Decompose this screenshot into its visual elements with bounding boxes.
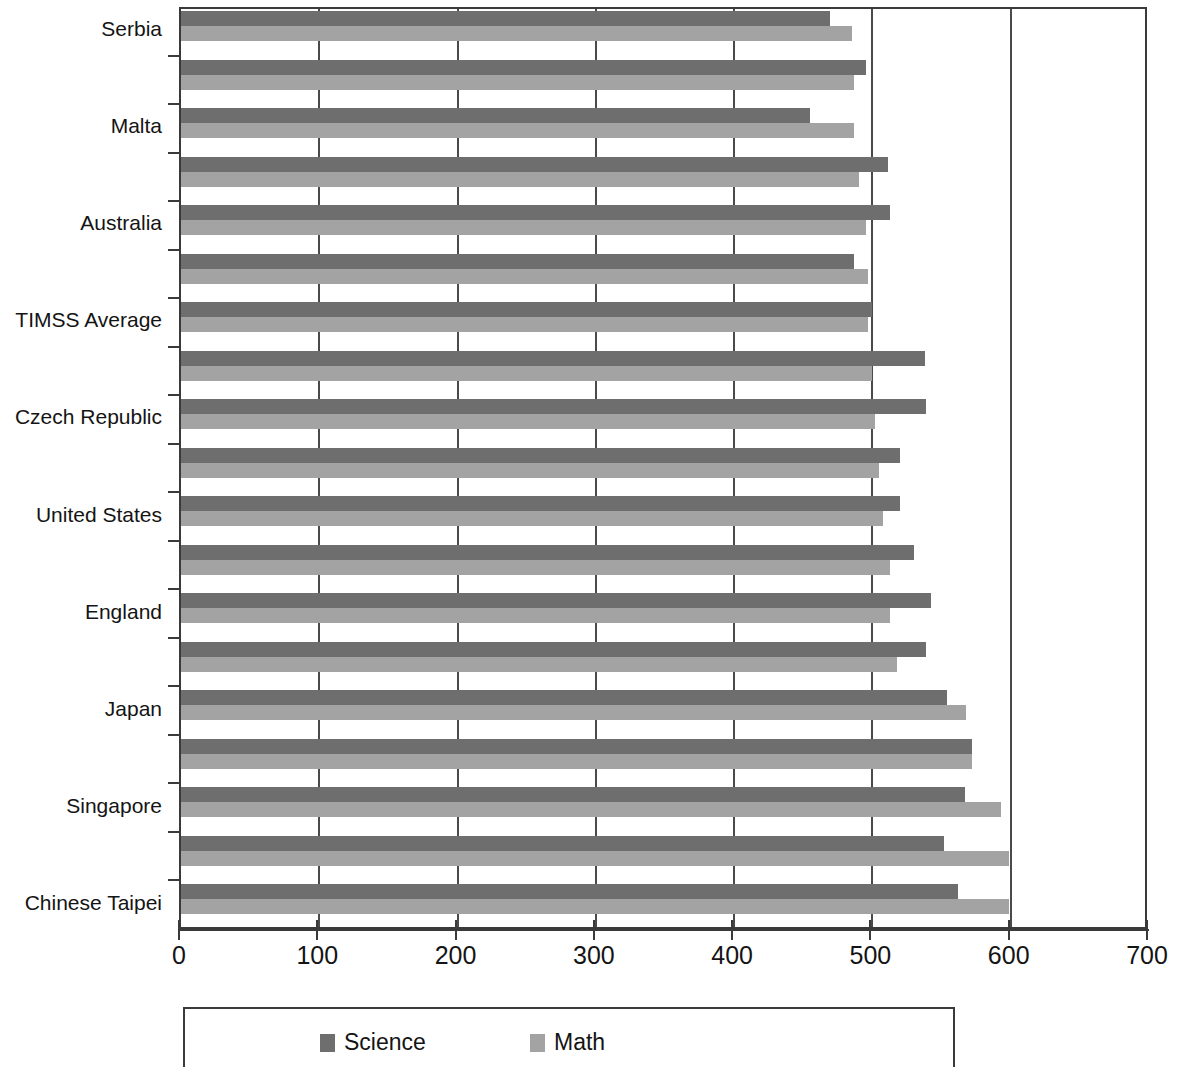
- bar-math: [181, 75, 854, 90]
- plot-area: [179, 7, 1147, 929]
- bar-row: [181, 543, 1145, 592]
- bar-row: [181, 58, 1145, 107]
- x-axis-tick-label-100: 100: [296, 941, 338, 970]
- bar-science: [181, 399, 926, 414]
- x-axis-tick-label-300: 300: [573, 941, 615, 970]
- y-axis-label-australia: Australia: [0, 211, 172, 235]
- y-axis-label-timss-average: TIMSS Average: [0, 308, 172, 332]
- y-axis-label-serbia: Serbia: [0, 17, 172, 41]
- bar-science: [181, 205, 890, 220]
- bar-math: [181, 705, 966, 720]
- y-axis-label-czech-republic: Czech Republic: [0, 405, 172, 429]
- y-axis-tick: [168, 152, 179, 154]
- bar-math: [181, 172, 859, 187]
- y-axis-tick: [168, 637, 179, 639]
- bar-row: [181, 834, 1145, 883]
- bar-science: [181, 642, 926, 657]
- y-axis-tick: [168, 685, 179, 687]
- legend-swatch-math-icon: [530, 1034, 545, 1052]
- bar-math: [181, 366, 872, 381]
- y-axis-tick: [168, 200, 179, 202]
- legend-item-math: Math: [530, 1029, 605, 1056]
- bar-math: [181, 317, 868, 332]
- y-axis-tick: [168, 831, 179, 833]
- x-axis-tick-700: [1146, 920, 1148, 940]
- bar-science: [181, 60, 866, 75]
- bar-row: [181, 882, 1145, 931]
- y-axis-tick: [168, 734, 179, 736]
- bar-science: [181, 593, 931, 608]
- x-axis-tick-label-700: 700: [1126, 941, 1168, 970]
- bar-row: [181, 688, 1145, 737]
- x-axis-line: [179, 929, 1149, 931]
- y-axis-tick: [168, 588, 179, 590]
- bar-science: [181, 496, 900, 511]
- y-axis-tick: [168, 249, 179, 251]
- x-axis-tick-500: [869, 920, 871, 940]
- bar-math: [181, 608, 890, 623]
- y-axis-label-chinese-taipei: Chinese Taipei: [0, 891, 172, 915]
- x-axis-tick-200: [455, 920, 457, 940]
- bar-science: [181, 787, 965, 802]
- x-axis-tick-600: [1008, 920, 1010, 940]
- bar-row: [181, 155, 1145, 204]
- legend-swatch-science-icon: [320, 1034, 335, 1052]
- bar-science: [181, 884, 958, 899]
- bar-science: [181, 545, 914, 560]
- bar-science: [181, 11, 830, 26]
- legend-label-math: Math: [554, 1029, 605, 1056]
- x-axis-tick-300: [593, 920, 595, 940]
- bar-row: [181, 300, 1145, 349]
- bar-science: [181, 690, 947, 705]
- bar-math: [181, 560, 890, 575]
- bar-row: [181, 640, 1145, 689]
- bar-math: [181, 851, 1009, 866]
- y-axis-tick: [168, 782, 179, 784]
- bar-math: [181, 269, 868, 284]
- bar-row: [181, 9, 1145, 58]
- x-axis-tick-label-0: 0: [172, 941, 186, 970]
- y-axis-label-malta: Malta: [0, 114, 172, 138]
- bar-row: [181, 397, 1145, 446]
- bar-math: [181, 899, 1009, 914]
- x-axis-tick-label-200: 200: [435, 941, 477, 970]
- y-axis-tick: [168, 491, 179, 493]
- bar-math: [181, 754, 972, 769]
- x-axis-tick-label-500: 500: [850, 941, 892, 970]
- y-axis-tick: [168, 540, 179, 542]
- bar-math: [181, 463, 879, 478]
- y-axis-tick: [168, 55, 179, 57]
- legend-item-science: Science: [320, 1029, 426, 1056]
- y-axis-tick: [168, 346, 179, 348]
- bar-math: [181, 657, 897, 672]
- bar-science: [181, 302, 872, 317]
- bar-science: [181, 254, 854, 269]
- bar-science: [181, 448, 900, 463]
- x-axis-tick-label-400: 400: [711, 941, 753, 970]
- legend: Science Math: [183, 1007, 955, 1067]
- legend-label-science: Science: [344, 1029, 426, 1056]
- bar-row: [181, 591, 1145, 640]
- bar-science: [181, 739, 972, 754]
- bar-row: [181, 349, 1145, 398]
- x-axis-tick-label-600: 600: [988, 941, 1030, 970]
- bar-science: [181, 351, 925, 366]
- y-axis-tick: [168, 297, 179, 299]
- x-axis-tick-0: [178, 920, 180, 940]
- bar-science: [181, 836, 944, 851]
- bar-math: [181, 511, 883, 526]
- bar-math: [181, 220, 866, 235]
- x-axis-tick-100: [316, 920, 318, 940]
- y-axis-label-japan: Japan: [0, 697, 172, 721]
- bar-row: [181, 106, 1145, 155]
- bar-row: [181, 252, 1145, 301]
- y-axis-tick: [168, 443, 179, 445]
- y-axis-tick: [168, 394, 179, 396]
- bar-science: [181, 108, 810, 123]
- bar-math: [181, 802, 1001, 817]
- bar-row: [181, 446, 1145, 495]
- bar-math: [181, 123, 854, 138]
- y-axis-tick: [168, 103, 179, 105]
- y-axis-label-singapore: Singapore: [0, 794, 172, 818]
